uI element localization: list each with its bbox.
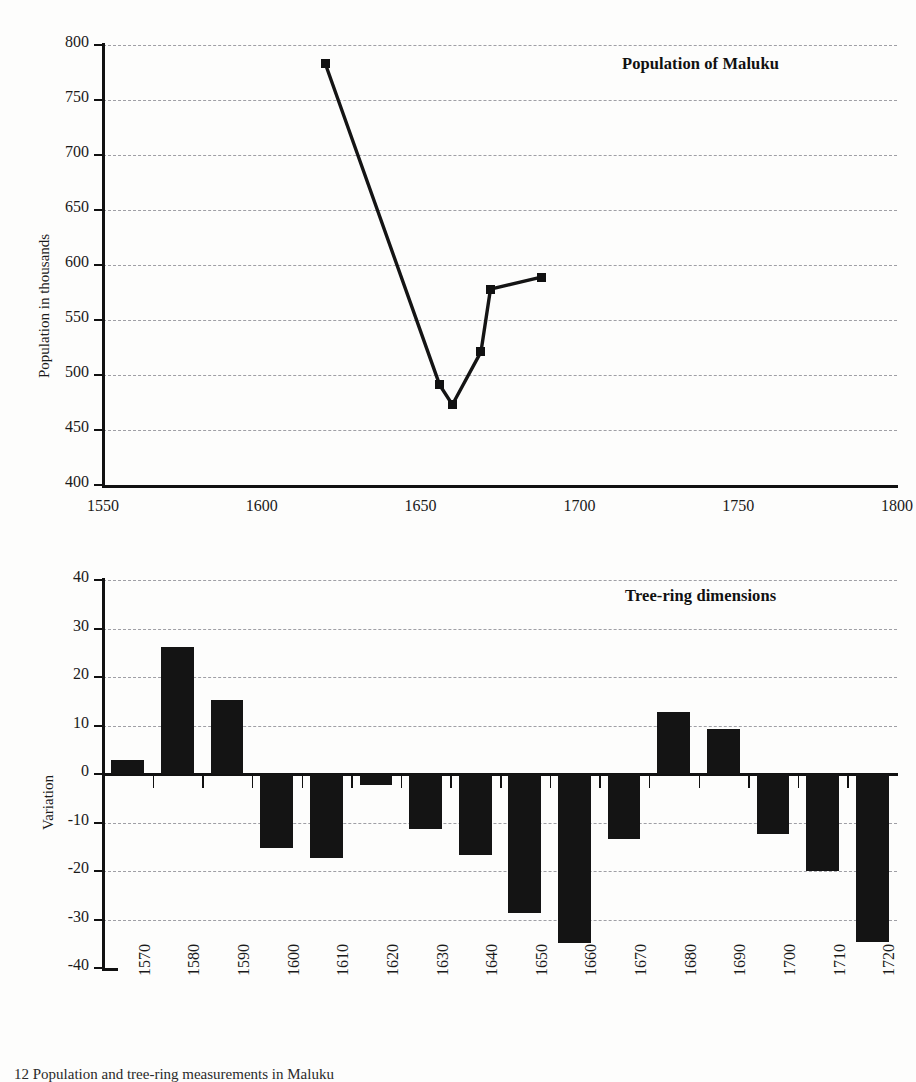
y-tickmark xyxy=(94,99,103,101)
x-tick-label: 1590 xyxy=(235,944,253,976)
bar xyxy=(211,700,244,774)
data-point-marker xyxy=(321,59,330,68)
x-axis-bottom-line xyxy=(102,968,118,971)
x-minor-tickmark xyxy=(649,775,651,788)
y-tickmark xyxy=(94,264,103,266)
x-minor-tickmark xyxy=(302,775,304,788)
x-minor-tickmark xyxy=(699,775,701,788)
x-minor-tickmark xyxy=(202,775,204,788)
bar xyxy=(508,774,541,913)
y-tickmark xyxy=(94,676,103,678)
bar xyxy=(409,774,442,829)
population-line-chart: Population of Maluku Population in thous… xyxy=(0,0,916,530)
x-tick-label: 1680 xyxy=(682,944,700,976)
x-minor-tickmark xyxy=(401,775,403,788)
x-tick-label: 1750 xyxy=(710,497,766,515)
y-tick-label: 40 xyxy=(33,568,89,586)
x-tick-label: 1640 xyxy=(483,944,501,976)
x-tick-label: 1650 xyxy=(393,497,449,515)
bar xyxy=(707,729,740,774)
bar xyxy=(161,647,194,774)
x-minor-tickmark xyxy=(351,775,353,788)
bar xyxy=(360,774,393,785)
y-tickmark xyxy=(94,44,103,46)
y-tick-label: 450 xyxy=(33,418,89,436)
bar xyxy=(558,774,591,943)
gridline-horizontal xyxy=(103,871,897,872)
x-minor-tickmark xyxy=(599,775,601,788)
y-tick-label: -40 xyxy=(33,956,89,974)
x-minor-tickmark xyxy=(500,775,502,788)
y-tickmark xyxy=(94,374,103,376)
x-minor-tickmark xyxy=(450,775,452,788)
gridline-horizontal xyxy=(103,580,897,581)
data-point-marker xyxy=(448,400,457,409)
y-tick-label: 600 xyxy=(33,253,89,271)
x-tick-label: 1690 xyxy=(731,944,749,976)
y-tick-label: 0 xyxy=(33,762,89,780)
y-tickmark xyxy=(94,429,103,431)
bar xyxy=(806,774,839,871)
x-tick-label: 1600 xyxy=(285,944,303,976)
y-tickmark xyxy=(94,209,103,211)
bar xyxy=(111,760,144,774)
bar xyxy=(657,712,690,774)
bar xyxy=(260,774,293,848)
data-point-marker xyxy=(486,285,495,294)
x-minor-tickmark xyxy=(798,775,800,788)
x-tick-label: 1670 xyxy=(632,944,650,976)
y-tick-label: -20 xyxy=(33,859,89,877)
x-tick-label: 1630 xyxy=(434,944,452,976)
y-tick-label: 10 xyxy=(33,714,89,732)
bar xyxy=(608,774,641,839)
x-tick-label: 1800 xyxy=(869,497,916,515)
y-tickmark xyxy=(94,919,103,921)
x-tick-label: 1570 xyxy=(136,944,154,976)
figure-caption: 12 Population and tree-ring measurements… xyxy=(14,1066,334,1082)
figure-page: Population of Maluku Population in thous… xyxy=(0,0,916,1082)
plot-area-tree-ring: -40-30-20-100102030401570158015901600161… xyxy=(103,580,897,968)
y-tickmark xyxy=(94,319,103,321)
bar xyxy=(856,774,889,942)
x-minor-tickmark xyxy=(252,775,254,788)
y-tick-label: 20 xyxy=(33,665,89,683)
y-tickmark xyxy=(94,822,103,824)
gridline-horizontal xyxy=(103,629,897,630)
y-tickmark xyxy=(94,725,103,727)
y-tickmark xyxy=(94,579,103,581)
x-minor-tickmark xyxy=(847,775,849,788)
x-minor-tickmark xyxy=(550,775,552,788)
x-tick-label: 1700 xyxy=(781,944,799,976)
y-tick-label: -30 xyxy=(33,908,89,926)
y-tickmark xyxy=(94,154,103,156)
x-tick-label: 1650 xyxy=(533,944,551,976)
x-tick-label: 1580 xyxy=(185,944,203,976)
y-tick-label: 400 xyxy=(33,473,89,491)
data-point-marker xyxy=(537,273,546,282)
y-tick-label: -10 xyxy=(33,811,89,829)
y-tick-label: 550 xyxy=(33,308,89,326)
gridline-horizontal xyxy=(103,920,897,921)
x-tick-label: 1550 xyxy=(75,497,131,515)
x-tick-label: 1720 xyxy=(880,944,898,976)
gridline-horizontal xyxy=(103,677,897,678)
x-minor-tickmark xyxy=(153,775,155,788)
x-tick-label: 1620 xyxy=(384,944,402,976)
y-tickmark xyxy=(94,628,103,630)
population-line-series xyxy=(103,45,897,485)
bar xyxy=(757,774,790,834)
plot-area-population: 4004505005506006507007508001550160016501… xyxy=(103,45,897,485)
x-axis-line xyxy=(102,485,898,488)
tree-ring-bar-chart: Tree-ring dimensions Variation -40-30-20… xyxy=(0,530,916,1050)
x-tick-label: 1610 xyxy=(334,944,352,976)
x-tick-label: 1660 xyxy=(582,944,600,976)
x-tick-label: 1710 xyxy=(831,944,849,976)
y-tick-label: 800 xyxy=(33,33,89,51)
y-tick-label: 750 xyxy=(33,88,89,106)
data-point-marker xyxy=(476,347,485,356)
y-tickmark xyxy=(94,773,103,775)
y-tickmark xyxy=(94,484,103,486)
bar xyxy=(310,774,343,858)
bar xyxy=(459,774,492,855)
x-tick-label: 1700 xyxy=(551,497,607,515)
